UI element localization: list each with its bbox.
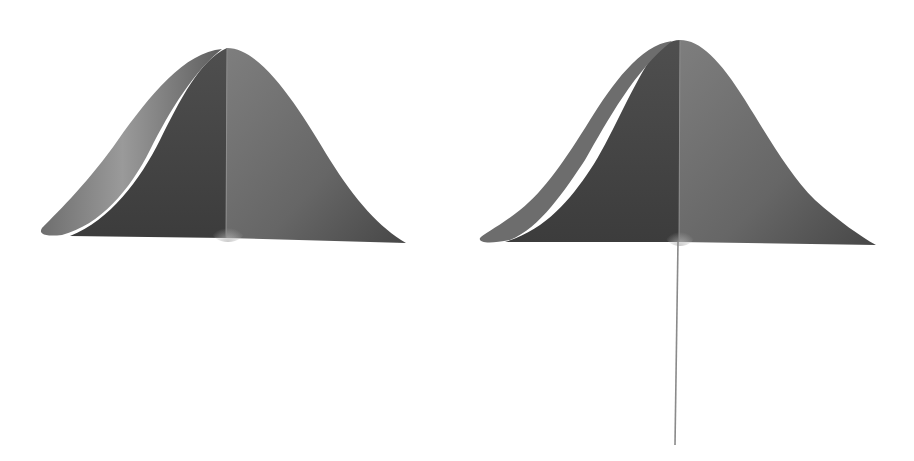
left-bell-right-face (226, 48, 406, 243)
right-bell-right-face (679, 40, 876, 245)
right-bell-surface (480, 40, 876, 445)
right-bell-stem (675, 242, 678, 445)
left-bell-highlight (210, 214, 246, 242)
right-bell-highlight (664, 218, 696, 246)
left-bell-surface (41, 48, 406, 243)
figure-canvas (0, 0, 914, 461)
